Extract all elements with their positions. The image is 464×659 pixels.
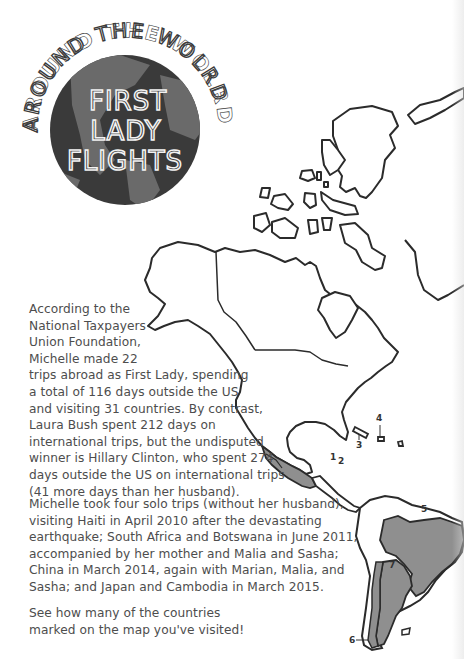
baffin-island — [340, 223, 385, 270]
title-line-flights: FLIGHTS — [67, 146, 183, 176]
title-badge: AROUND THE WOLRD AROUND THE WOLRD FIRST … — [0, 0, 250, 230]
map-label-7: 7 — [389, 560, 395, 570]
title-line-first: FIRST — [89, 86, 167, 116]
map-label-6: 6 — [349, 635, 355, 645]
paragraph-call-to-action: See how many of the countries marked on … — [29, 605, 249, 638]
map-label-3: 3 — [356, 440, 362, 450]
paragraph-stats: According to the National Taxpayers Unio… — [29, 301, 349, 500]
paragraph-solo-trips: Michelle took four solo trips (without h… — [29, 496, 329, 596]
page-edge-shadow — [452, 0, 464, 659]
map-label-4: 4 — [376, 413, 382, 423]
book-page: 1 2 3 4 5 6 7 AROUND THE WOLRD AROUND TH… — [0, 0, 464, 659]
title-line-lady: LADY — [90, 116, 161, 146]
map-label-5: 5 — [421, 504, 427, 514]
greenland-outline — [333, 106, 398, 198]
